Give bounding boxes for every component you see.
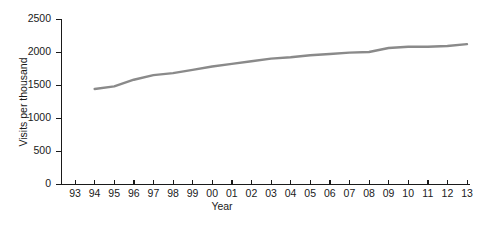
line-chart-figure: Visits per thousand 05001000150020002500… <box>0 0 488 228</box>
series-polyline <box>95 44 467 89</box>
x-axis-title-text: Year <box>211 200 232 212</box>
data-series-line <box>0 0 488 228</box>
x-axis-title: Year <box>0 200 488 212</box>
